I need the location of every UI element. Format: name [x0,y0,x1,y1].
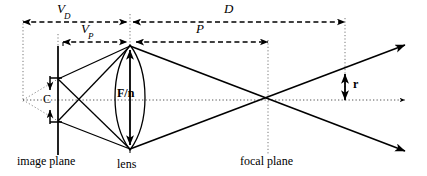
measure-label-c: C [43,93,51,105]
ray-lower-c-to-lens-bottom [58,121,130,149]
dimension-label-vp-subscript: P [88,31,94,41]
construction-ray-upper [23,79,58,100]
diagram-canvas [0,0,427,176]
measure-label-f-over-n: F/n [117,87,134,99]
ray-lens-bottom-to-far-upper [130,45,405,149]
plane-label-lens: lens [117,158,136,170]
dimension-label-p: P [196,22,204,35]
construction-ray-lower [23,100,58,121]
measure-label-r: r [353,78,358,90]
ray-lower-c-to-lens-top [58,46,130,121]
plane-label-image-plane: image plane [17,155,75,167]
dimension-label-p-text: P [196,21,204,36]
ray-upper-c-to-lens-top [58,46,130,79]
dimension-label-d: D [224,2,233,15]
dimension-label-vd: VD [57,2,71,19]
optics-diagram: VD D VP P C F/n r image plane lens focal… [0,0,427,176]
dimension-label-d-text: D [224,1,233,16]
ray-lens-top-to-far-lower [130,46,405,151]
dimension-label-vd-subscript: D [64,11,71,21]
plane-label-focal-plane: focal plane [240,155,293,167]
dimension-label-vp: VP [81,22,94,39]
dimension-leader-vp [58,42,63,155]
